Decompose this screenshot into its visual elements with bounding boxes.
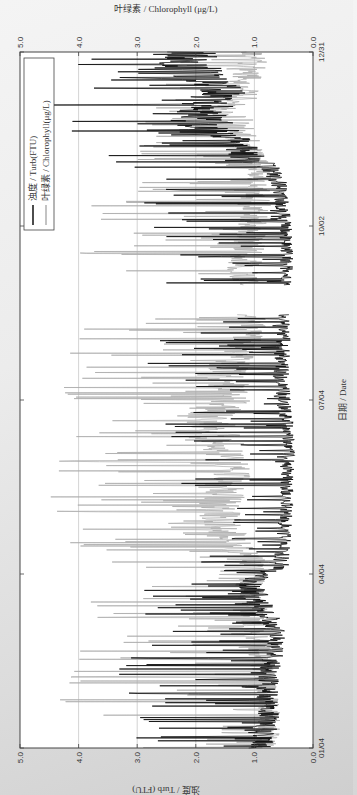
x-tick-label: 12/31 <box>317 41 326 62</box>
right-y-axis-label: 叶绿素 / Chlorophyll (μg/L) <box>114 3 217 14</box>
x-axis-label: 日期 / Date <box>338 379 348 421</box>
y-tick-label-right: 4.0 <box>75 36 84 48</box>
x-tick-label: 10/02 <box>317 215 326 236</box>
y-tick-label: 4.0 <box>75 751 84 763</box>
y-tick-label-right: 2.0 <box>192 36 201 48</box>
y-tick-label: 1.0 <box>250 751 259 763</box>
x-tick-label: 01/04 <box>317 737 326 758</box>
y-tick-label: 3.0 <box>133 751 142 763</box>
y-tick-label-right: 3.0 <box>133 36 142 48</box>
y-tick-label: 5.0 <box>16 751 25 763</box>
x-tick-label: 04/04 <box>317 563 326 584</box>
y-tick-label-right: 5.0 <box>16 36 25 48</box>
x-tick-label: 07/04 <box>317 389 326 410</box>
left-y-axis-label: 浊度 / Turb (FTU) <box>132 785 199 795</box>
y-tick-label: 2.0 <box>192 751 201 763</box>
y-tick-label: 0.0 <box>309 751 318 763</box>
y-tick-label-right: 1.0 <box>250 36 259 48</box>
legend-label-turbidity: 浊度 / Turb(FTU) <box>27 136 38 201</box>
y-tick-label-right: 0.0 <box>309 36 318 48</box>
legend-label-chlorophyll: 叶绿素 / Chlorophyll(μg/L) <box>40 100 51 201</box>
legend: 浊度 / Turb(FTU) 叶绿素 / Chlorophyll(μg/L) <box>24 58 54 230</box>
